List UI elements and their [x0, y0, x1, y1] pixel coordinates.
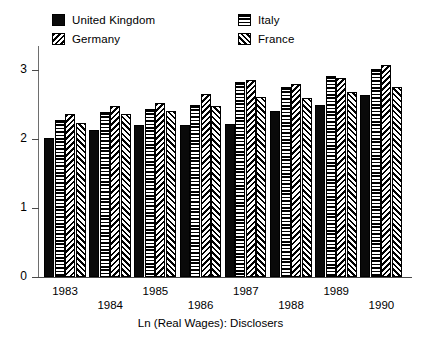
bar-group	[89, 46, 131, 277]
bar-group	[134, 46, 176, 277]
x-axis-labels: 19831984198519861987198819891990	[38, 278, 412, 314]
bar	[110, 106, 120, 277]
x-axis-tick-label: 1989	[323, 284, 349, 298]
bar-group	[315, 46, 357, 277]
bar	[201, 94, 211, 277]
bar	[235, 82, 245, 277]
x-axis-tick-label: 1983	[52, 284, 78, 298]
legend-label: France	[258, 33, 294, 45]
x-axis-tick-label: 1984	[97, 298, 123, 312]
plot-area: 0123	[38, 46, 412, 278]
bar	[44, 138, 54, 277]
bar	[190, 105, 200, 277]
bar	[371, 69, 381, 277]
legend-label: Italy	[258, 14, 280, 26]
y-axis-tick: 2	[32, 139, 39, 140]
bar	[225, 124, 235, 277]
bar	[180, 125, 190, 277]
legend-item-italy: Italy	[238, 14, 280, 26]
legend-item-germany: Germany	[52, 33, 120, 45]
bar-group	[180, 46, 222, 277]
y-axis-tick: 1	[32, 208, 39, 209]
y-axis-tick-label: 3	[20, 62, 27, 77]
bar	[65, 114, 75, 277]
bar	[302, 98, 312, 277]
x-axis-tick-label: 1985	[143, 284, 169, 298]
bar	[360, 95, 370, 277]
bar	[155, 103, 165, 277]
bar	[347, 92, 357, 277]
y-axis-tick-label: 2	[20, 131, 27, 146]
legend-item-united-kingdom: United Kingdom	[52, 14, 155, 26]
x-axis-tick-label: 1988	[278, 298, 304, 312]
bar	[315, 105, 325, 277]
bar-group	[44, 46, 86, 277]
bar	[166, 111, 176, 277]
bar-group	[225, 46, 267, 277]
bar-group	[270, 46, 312, 277]
y-axis-tick-label: 1	[20, 200, 27, 215]
bar	[291, 84, 301, 277]
bar	[326, 76, 336, 277]
backslash-hatch-swatch-icon	[52, 33, 65, 45]
bar	[145, 109, 155, 277]
legend-label: United Kingdom	[72, 14, 155, 26]
x-axis-title: Ln (Real Wages): Disclosers	[0, 316, 421, 330]
bar-group	[360, 46, 402, 277]
bar	[246, 80, 256, 277]
solid-swatch-icon	[52, 14, 65, 26]
bar	[100, 112, 110, 277]
bar	[89, 130, 99, 277]
bar	[55, 120, 65, 277]
bar	[134, 125, 144, 277]
horizontal-hatch-swatch-icon	[238, 14, 251, 26]
x-axis-tick-label: 1987	[233, 284, 259, 298]
bar	[381, 65, 391, 277]
bar	[256, 97, 266, 277]
y-axis-tick-label: 0	[20, 269, 27, 284]
slash-hatch-swatch-icon	[238, 33, 251, 45]
bar	[211, 106, 221, 277]
x-axis-tick-label: 1986	[188, 298, 214, 312]
bar	[270, 111, 280, 277]
bar	[76, 123, 86, 277]
bar	[336, 78, 346, 277]
bar-chart: United Kingdom Germany Italy France 0123…	[0, 0, 421, 348]
x-axis-tick-label: 1990	[369, 298, 395, 312]
bar	[392, 87, 402, 277]
legend-item-france: France	[238, 33, 294, 45]
bar	[121, 114, 131, 277]
bar	[281, 87, 291, 277]
y-axis-tick: 3	[32, 70, 39, 71]
bar-groups	[39, 46, 412, 277]
legend-label: Germany	[72, 33, 120, 45]
